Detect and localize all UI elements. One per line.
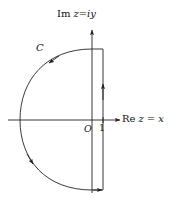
imaginary-axis-label-equals: = <box>79 9 87 19</box>
real-axis-label: Rez=x <box>122 114 164 124</box>
real-axis-label-prefix: Re <box>122 114 135 124</box>
imaginary-axis-label-iy: iy <box>87 9 96 19</box>
contour-drawing <box>0 0 180 208</box>
contour-arc-C <box>20 49 92 190</box>
real-axis-label-equals: = <box>147 114 155 124</box>
imaginary-axis-label: Imz=iy <box>57 9 96 19</box>
real-axis-label-z: z <box>138 114 143 124</box>
contour-label-C: C <box>36 43 44 53</box>
complex-plane-contour-figure: Imz=iy Rez=x O 1 C <box>0 0 180 208</box>
abscissa-one-label: 1 <box>99 123 105 133</box>
arc-lower-arrow-icon <box>27 154 33 164</box>
imaginary-axis-label-prefix: Im <box>57 9 70 19</box>
origin-label: O <box>84 124 92 134</box>
real-axis-label-x: x <box>158 114 164 124</box>
